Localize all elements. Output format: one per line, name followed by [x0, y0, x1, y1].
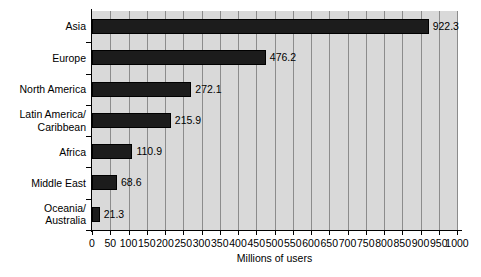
x-axis-tick-label: 550 [284, 237, 302, 250]
x-axis-tick-label: 850 [393, 237, 411, 250]
bar[interactable] [92, 175, 117, 190]
x-axis-tick [293, 230, 294, 235]
y-axis-tick [86, 74, 92, 75]
y-axis-label-line: Asia [0, 20, 86, 33]
x-axis-tick [457, 230, 458, 235]
x-axis-tick [147, 230, 148, 235]
x-axis-tick-label: 800 [375, 237, 393, 250]
y-axis-category-label: Africa [0, 146, 86, 159]
x-axis-tick-label: 300 [193, 237, 211, 250]
bar-value-label: 922.3 [433, 18, 459, 34]
x-axis-tick-label: 150 [138, 237, 156, 250]
bar-value-label: 110.9 [136, 143, 162, 159]
y-axis-tick [86, 199, 92, 200]
y-axis-label-line: Oceania/ [0, 202, 86, 215]
y-axis-category-labels: AsiaEuropeNorth AmericaLatin America/Car… [0, 11, 86, 230]
y-axis-category-label: Asia [0, 20, 86, 33]
x-axis-tick [348, 230, 349, 235]
x-axis-tick-label: 400 [229, 237, 247, 250]
bar-row: 272.1 [92, 74, 457, 105]
gridline [457, 11, 458, 230]
x-axis-tick-label: 700 [339, 237, 357, 250]
x-axis-tick [421, 230, 422, 235]
x-axis-tick-label: 50 [104, 237, 116, 250]
y-axis-label-line: Caribbean [0, 121, 86, 134]
x-axis-tick-label: 200 [156, 237, 174, 250]
x-axis-tick-label: 500 [266, 237, 284, 250]
bars-layer: 922.3476.2272.1215.9110.968.621.3 [92, 11, 457, 230]
x-axis-tick-label: 100 [120, 237, 138, 250]
bar-row: 68.6 [92, 167, 457, 198]
x-axis-title: Millions of users [92, 252, 457, 264]
x-axis-tick [92, 230, 93, 235]
x-axis-tick [165, 230, 166, 235]
x-axis-tick [402, 230, 403, 235]
y-axis-category-label: North America [0, 83, 86, 96]
y-axis-label-line: North America [0, 83, 86, 96]
bar-chart: 922.3476.2272.1215.9110.968.621.3 AsiaEu… [0, 0, 481, 277]
bar[interactable] [92, 144, 132, 159]
y-axis-label-line: Middle East [0, 177, 86, 190]
y-axis-tick [86, 42, 92, 43]
y-axis-label-line: Latin America/ [0, 108, 86, 121]
y-axis-category-label: Europe [0, 52, 86, 65]
y-axis-tick [86, 105, 92, 106]
bar[interactable] [92, 207, 100, 222]
bar-row: 215.9 [92, 105, 457, 136]
x-axis-tick [329, 230, 330, 235]
x-axis-tick [110, 230, 111, 235]
y-axis-tick [86, 167, 92, 168]
x-axis-tick [256, 230, 257, 235]
bar[interactable] [92, 19, 429, 34]
bar-value-label: 215.9 [175, 112, 201, 128]
x-axis-tick [220, 230, 221, 235]
bar-value-label: 476.2 [270, 49, 296, 65]
x-axis-tick-label: 250 [174, 237, 192, 250]
bar-row: 476.2 [92, 42, 457, 73]
x-axis-tick-label: 1000 [445, 237, 468, 250]
bar-row: 21.3 [92, 199, 457, 230]
bar[interactable] [92, 113, 171, 128]
x-axis-tick [366, 230, 367, 235]
x-axis-tick [238, 230, 239, 235]
x-axis-tick-label: 0 [89, 237, 95, 250]
x-axis-tick [439, 230, 440, 235]
x-axis-tick [202, 230, 203, 235]
x-axis-tick-label: 600 [302, 237, 320, 250]
bar[interactable] [92, 50, 266, 65]
y-axis-label-line: Europe [0, 52, 86, 65]
bar-value-label: 68.6 [121, 174, 141, 190]
bar-value-label: 21.3 [104, 206, 124, 222]
x-axis-tick-label: 750 [357, 237, 375, 250]
x-axis-tick-label: 450 [247, 237, 265, 250]
bar-row: 922.3 [92, 11, 457, 42]
x-axis-tick [129, 230, 130, 235]
bar-value-label: 272.1 [195, 81, 221, 97]
x-axis-tick [275, 230, 276, 235]
y-axis-category-label: Latin America/Caribbean [0, 108, 86, 133]
y-axis-label-line: Australia [0, 214, 86, 227]
y-axis-category-label: Middle East [0, 177, 86, 190]
bar[interactable] [92, 82, 191, 97]
x-axis-tick-label: 650 [320, 237, 338, 250]
bar-row: 110.9 [92, 136, 457, 167]
y-axis-label-line: Africa [0, 146, 86, 159]
x-axis-tick [183, 230, 184, 235]
x-axis-tick-label: 900 [412, 237, 430, 250]
x-axis-tick [311, 230, 312, 235]
y-axis-tick [86, 136, 92, 137]
x-axis-tick-label: 350 [211, 237, 229, 250]
y-axis-category-label: Oceania/Australia [0, 202, 86, 227]
x-axis-tick [384, 230, 385, 235]
